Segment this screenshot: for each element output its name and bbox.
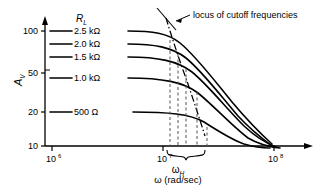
y-tick-label-100: 100: [23, 26, 38, 36]
y-ticks-group: 100 50 20 10: [23, 26, 50, 151]
y-tick-label-50: 50: [28, 68, 38, 78]
y-tick-label-10: 10: [28, 141, 38, 151]
y-tick-label-20: 20: [28, 107, 38, 117]
x-tick-base-1e7: 10: [157, 154, 167, 164]
y-axis-title-sub: V: [19, 74, 26, 79]
omega-h-label: ωH: [172, 164, 185, 177]
omega-h-sub: H: [180, 170, 185, 177]
x-tick-exp-1e8: 8: [280, 153, 284, 159]
x-tick-base-1e6: 10: [46, 154, 56, 164]
legend-item-2p0k: 2.0 kΩ: [74, 39, 101, 49]
legend-item-2p5k: 2.5 kΩ: [74, 26, 101, 36]
locus-leader-line: [157, 8, 176, 30]
x-tick-exp-1e6: 6: [58, 153, 62, 159]
x-ticks-group: 10 6 10 7 10 8: [46, 146, 284, 164]
legend-title-sub: L: [83, 19, 87, 26]
omega-h-brace-group: ωH: [167, 150, 205, 177]
omega-h-brace: [167, 150, 205, 160]
x-tick-base-1e8: 10: [268, 154, 278, 164]
y-axis-title: AV: [12, 74, 26, 87]
x-tick-label-1e6: 10 6: [46, 153, 62, 164]
legend-title-base: R: [76, 13, 83, 24]
bode-magnitude-chart: 100 50 20 10 10 6 10 7 10 8 AV ω (rad/se…: [0, 0, 327, 188]
figure-container: 100 50 20 10 10 6 10 7 10 8 AV ω (rad/se…: [0, 0, 327, 188]
omega-h-base: ω: [172, 164, 180, 175]
x-axis-arrowhead: [304, 143, 313, 149]
svg-text:AV: AV: [12, 74, 26, 87]
curve-1p5k: [128, 57, 276, 147]
curve-2p5k: [128, 31, 272, 144]
locus-annotation-group: locus of cutoff frequencies: [157, 8, 298, 30]
x-axis-title: ω (rad/sec): [154, 174, 202, 185]
locus-leader-arm: [176, 15, 190, 21]
y-axis-arrowhead: [42, 16, 48, 25]
inline-legend-group: RL 2.5 kΩ 2.0 kΩ 1.5 kΩ 1.0 kΩ 500 Ω: [74, 13, 101, 117]
legend-item-1p0k: 1.0 kΩ: [74, 73, 101, 83]
cutoff-dropline-group: [170, 40, 207, 146]
y-axis-title-base: A: [12, 79, 24, 87]
legend-item-1p5k: 1.5 kΩ: [74, 52, 101, 62]
locus-annotation-label: locus of cutoff frequencies: [193, 10, 298, 20]
legend-item-500: 500 Ω: [74, 107, 99, 117]
legend-title: RL: [76, 13, 87, 26]
x-tick-label-1e8: 10 8: [268, 153, 284, 164]
x-tick-label-1e7: 10 7: [157, 153, 173, 164]
